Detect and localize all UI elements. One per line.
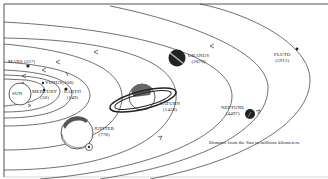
mercury-distance: (58) [32,95,57,101]
orbit-neptune [100,6,268,179]
venus-icon [42,82,44,84]
saturn-distance: (1428) [160,107,180,113]
uranus-icon [169,50,186,67]
solar-system-diagram: SUN MARS (227) VENUS(108) MERCURY (58) E… [0,0,328,179]
pluto-label: PLUTO (5913) [274,52,291,64]
jupiter-icon [61,116,93,150]
neptune-icon [245,109,255,119]
saturn-label: SATURN (1428) [160,101,180,113]
venus-label: VENUS(108) [45,80,74,86]
neptune-label: NEPTUNE (4497) [221,105,244,117]
jupiter-label: JUPITER (778) [94,126,114,138]
neptune-distance: (4497) [221,111,244,117]
mars-name: MARS [8,59,23,64]
mercury-label: MERCURY (58) [32,89,57,101]
mars-label: MARS (227) [8,59,35,65]
orbit-pluto [150,4,310,179]
jupiter-distance: (778) [94,132,114,138]
sun-label: SUN [12,91,22,97]
earth-label: EARTH (149) [64,89,81,101]
earth-distance: (149) [64,95,81,101]
pluto-icon [296,48,299,51]
pluto-distance: (5913) [274,58,291,64]
mars-distance: (227) [24,59,35,64]
venus-name: VENUS [45,80,62,85]
venus-distance: (108) [62,80,73,85]
distance-caption: Distance from the Sun in millions kilome… [209,140,300,145]
uranus-distance: (2870) [188,59,209,65]
uranus-label: URANUS (2870) [188,53,209,65]
